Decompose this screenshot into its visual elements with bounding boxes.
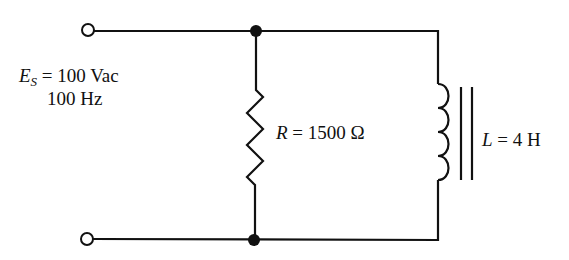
inductor-symbol (438, 84, 449, 180)
resistor-label: R = 1500 Ω (276, 123, 365, 142)
bottom-junction-dot (248, 234, 260, 246)
source-frequency-label: 100 Hz (47, 89, 102, 108)
inductor-label: L = 4 H (482, 130, 541, 149)
top-junction-dot (250, 25, 262, 37)
source-label: ES = 100 Vac (19, 66, 119, 88)
parallel-rl-circuit-diagram: ES = 100 Vac 100 Hz R = 1500 Ω L = 4 H (0, 0, 569, 260)
top-terminal (82, 24, 94, 36)
top-wire (94, 31, 438, 84)
bottom-terminal (81, 233, 93, 245)
resistor-symbol (247, 31, 263, 239)
bottom-wire (93, 180, 438, 240)
